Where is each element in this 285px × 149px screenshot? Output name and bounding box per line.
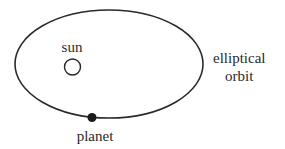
planet-icon (88, 113, 97, 122)
orbit-label-line2: orbit (225, 68, 254, 84)
orbit-diagram: sun elliptical orbit planet (0, 0, 285, 149)
sun-label: sun (62, 39, 83, 55)
sun-icon (65, 59, 81, 75)
orbit-diagram-canvas: sun elliptical orbit planet (0, 0, 285, 149)
orbit-label-line1: elliptical (213, 50, 265, 66)
elliptical-orbit-path (15, 10, 203, 118)
planet-label: planet (77, 128, 114, 144)
